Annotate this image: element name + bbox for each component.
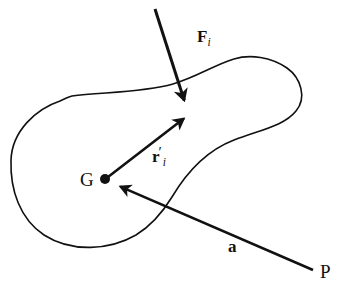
force-symbol: F — [197, 27, 207, 46]
acceleration-vector-arrow — [120, 187, 313, 270]
position-vector-arrow — [108, 118, 184, 177]
position-subscript: i — [163, 156, 166, 168]
centroid-label: G — [80, 170, 94, 189]
force-subscript: i — [207, 36, 210, 48]
point-p-label: P — [320, 262, 331, 281]
position-prime: ′ — [159, 144, 162, 160]
acceleration-vector-label: a — [228, 238, 237, 255]
position-vector-label: r′i — [152, 148, 166, 165]
force-vector-label: Fi — [197, 28, 211, 45]
centroid-point-marker — [100, 174, 110, 184]
mechanics-diagram: Fi r′i a G P — [0, 0, 345, 298]
diagram-canvas — [0, 0, 345, 298]
acceleration-symbol: a — [228, 237, 237, 256]
